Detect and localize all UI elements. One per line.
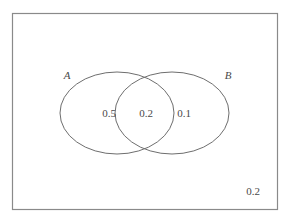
venn-diagram-canvas: A B 0.5 0.2 0.1 0.2 xyxy=(0,0,290,223)
region-value-b-only: 0.1 xyxy=(177,107,191,119)
venn-diagram-figure: A B 0.5 0.2 0.1 0.2 xyxy=(0,0,290,223)
region-value-a-only: 0.5 xyxy=(102,107,116,119)
region-value-intersection: 0.2 xyxy=(139,107,153,119)
set-a-label: A xyxy=(63,69,71,81)
set-b-label: B xyxy=(225,69,232,81)
region-value-outside: 0.2 xyxy=(246,185,260,197)
